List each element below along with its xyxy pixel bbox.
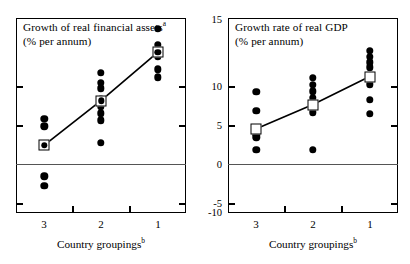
x-axis-caption-left-superscript: b xyxy=(141,236,145,245)
x-axis-caption-right-text: Country groupings xyxy=(269,238,353,250)
y-axis-label-5: 5 xyxy=(190,120,224,131)
trend-line-right xyxy=(228,18,398,213)
x-axis-caption-left: Country groupingsb xyxy=(16,238,186,250)
group-mean-marker xyxy=(251,123,262,134)
y-axis-labels: 15 10 5 0 -5 -10 xyxy=(190,18,224,213)
y-axis-label-neg10: -10 xyxy=(190,207,224,218)
x-group-label-left-1: 1 xyxy=(155,218,161,230)
group-mean-marker xyxy=(39,140,50,151)
group-mean-marker xyxy=(152,47,163,58)
x-axis-caption-right-superscript: b xyxy=(353,236,357,245)
chart-panel-left: Growth of real financial assetsa (% per … xyxy=(16,18,186,213)
chart-panel-right: Growth rate of real GDP (% per annum) xyxy=(228,18,398,213)
x-group-label-left-3: 3 xyxy=(41,218,47,230)
group-mean-marker xyxy=(364,71,375,82)
y-axis-label-0: 0 xyxy=(190,159,224,170)
x-axis-caption-left-text: Country groupings xyxy=(57,238,141,250)
x-group-label-right-2: 2 xyxy=(310,218,316,230)
x-group-label-left-2: 2 xyxy=(98,218,104,230)
group-mean-marker xyxy=(96,95,107,106)
y-axis-label-10: 10 xyxy=(190,81,224,92)
x-group-label-right-3: 3 xyxy=(253,218,259,230)
figure-root: Growth of real financial assetsa (% per … xyxy=(0,0,410,264)
x-group-label-right-1: 1 xyxy=(367,218,373,230)
y-axis-label-15: 15 xyxy=(190,14,224,25)
x-group-labels-left: 3 2 1 xyxy=(16,218,186,234)
x-axis-caption-right: Country groupingsb xyxy=(228,238,398,250)
group-mean-marker xyxy=(308,99,319,110)
x-group-labels-right: 3 2 1 xyxy=(228,218,398,234)
